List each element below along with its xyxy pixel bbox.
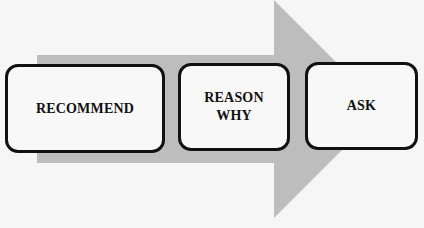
step-label: ASK	[347, 97, 376, 115]
step-label: REASON WHY	[204, 89, 264, 125]
step-box-ask: ASK	[305, 62, 418, 150]
step-box-recommend: RECOMMEND	[5, 64, 165, 153]
step-box-reason-why: REASON WHY	[178, 63, 290, 151]
step-label: RECOMMEND	[36, 100, 134, 118]
